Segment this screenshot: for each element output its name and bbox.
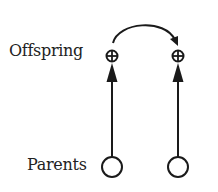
edge-offspring1-offspring2 <box>113 25 178 46</box>
inheritance-diagram <box>0 0 218 192</box>
offspring-node-2 <box>173 51 184 62</box>
arrowhead-icon <box>170 36 178 46</box>
arrowhead-icon <box>107 63 118 82</box>
arrowhead-icon <box>173 63 184 82</box>
parent-node-1 <box>102 157 122 177</box>
edge-parent2-offspring2 <box>173 63 184 157</box>
offspring-node-1 <box>107 51 118 62</box>
parent-node-2 <box>168 157 188 177</box>
edge-parent1-offspring1 <box>107 63 118 157</box>
